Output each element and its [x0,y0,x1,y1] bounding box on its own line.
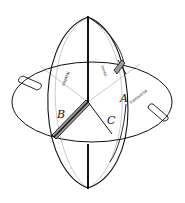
caption-frontal: frontal [100,65,108,77]
label-c: C [107,114,116,127]
frontal-plane-left-arc [48,17,88,188]
orthogonal-planes-diagram: A B C transverse sagittal frontal [0,0,185,203]
sagittal-plane [88,17,126,162]
transverse-plane-outline [12,62,172,142]
label-a: A [119,92,128,105]
left-slot-handle [19,76,42,90]
caption-transverse: transverse [129,87,149,104]
transverse-plane [12,62,172,142]
caption-sagittal: sagittal [60,71,70,87]
label-b: B [56,108,65,121]
